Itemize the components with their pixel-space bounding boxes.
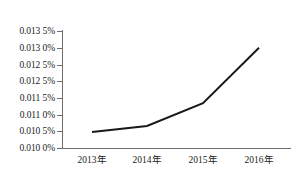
y-axis-label: 0.012 5% xyxy=(19,76,55,86)
y-axis-label: 0.013 5% xyxy=(19,26,55,36)
x-axis-label: 2014年 xyxy=(133,152,162,166)
y-axis-tick xyxy=(57,131,62,132)
x-axis-label: 2013年 xyxy=(78,152,107,166)
y-axis-tick xyxy=(57,115,62,116)
y-axis-label: 0.011 0% xyxy=(20,110,55,120)
line-chart: 0.013 5% 0.013 0% 0.012 5% 0.012 5% 0.01… xyxy=(0,0,302,170)
y-axis-label: 0.013 0% xyxy=(19,43,55,53)
x-axis-label: 2016年 xyxy=(245,152,274,166)
y-axis-tick xyxy=(57,31,62,32)
y-axis-tick xyxy=(57,148,62,149)
y-axis-label: 0.010 5% xyxy=(19,126,55,136)
y-axis-tick xyxy=(57,98,62,99)
y-axis-tick xyxy=(57,81,62,82)
y-axis-line xyxy=(62,30,63,149)
y-axis-label: 0.011 5% xyxy=(20,93,55,103)
y-axis-tick xyxy=(57,65,62,66)
y-axis-label: 0.012 5% xyxy=(19,60,55,70)
series-line xyxy=(92,48,259,132)
x-axis-line xyxy=(62,148,291,149)
y-axis-tick xyxy=(57,48,62,49)
x-axis-label: 2015年 xyxy=(189,152,218,166)
y-axis-label: 0.010 0% xyxy=(19,143,55,153)
